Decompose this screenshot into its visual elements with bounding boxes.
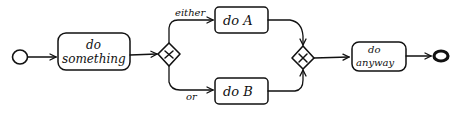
task-label-line2: something — [62, 52, 126, 66]
gateway-merge[interactable] — [292, 46, 314, 69]
exclusive-x-icon — [165, 51, 173, 58]
end-circle-icon — [434, 51, 448, 61]
task-label-line1: do — [86, 38, 101, 52]
task-label: do A — [223, 13, 253, 28]
start-event[interactable] — [13, 50, 28, 64]
flow-gateway1-to-taskB — [169, 66, 213, 90]
task-do-anyway[interactable]: do anyway — [352, 42, 406, 71]
start-circle-icon — [13, 50, 28, 64]
flow-gateway2-to-task4 — [314, 57, 349, 58]
task-do-a[interactable]: do A — [215, 7, 268, 33]
task-label-line1: do — [368, 44, 380, 55]
task-do-something[interactable]: do something — [58, 33, 130, 70]
flow-taskA-to-gateway2 — [268, 20, 303, 45]
task-label: do B — [223, 84, 253, 99]
edge-label-or: or — [186, 91, 198, 102]
flow-gateway1-to-taskA — [169, 20, 213, 43]
exclusive-x-icon — [299, 54, 307, 62]
bpmn-diagram: do something either or do A do B do anyw… — [0, 0, 461, 113]
task-label-line2: anyway — [356, 57, 395, 68]
task-do-b[interactable]: do B — [215, 78, 268, 104]
flow-task1-to-gateway1 — [130, 54, 157, 55]
end-event[interactable] — [434, 51, 448, 61]
flow-taskB-to-gateway2 — [268, 70, 303, 91]
gateway-split[interactable] — [158, 43, 180, 66]
edge-label-either: either — [175, 7, 206, 18]
